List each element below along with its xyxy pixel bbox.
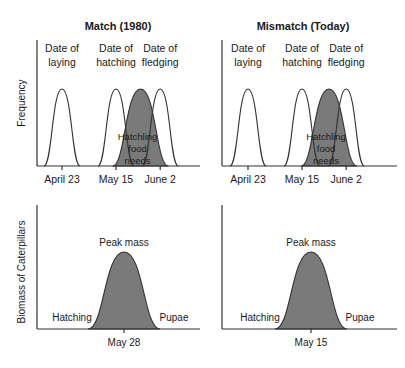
x-tick-label: April 23 bbox=[230, 173, 266, 185]
pupae-label: Pupae bbox=[346, 312, 375, 323]
series-label: Date of bbox=[143, 42, 177, 54]
food-needs-label: needs bbox=[125, 155, 151, 166]
series-label: hatching bbox=[282, 56, 322, 68]
panel-title: Match (1980) bbox=[85, 20, 152, 32]
series-label: laying bbox=[48, 56, 76, 68]
panel-mismatch-frequency: Mismatch (Today) April 23May 15June 2 Ha… bbox=[222, 20, 397, 185]
x-tick-label: June 2 bbox=[144, 173, 176, 185]
series-label: Date of bbox=[329, 42, 363, 54]
hatching-label: Hatching bbox=[52, 312, 91, 323]
peak-mass-label: Peak mass bbox=[99, 237, 148, 248]
series-label: Date of bbox=[285, 42, 319, 54]
date-of-laying-curve bbox=[44, 89, 80, 166]
x-tick-label: June 2 bbox=[330, 173, 362, 185]
food-needs-label: food bbox=[128, 143, 147, 154]
panel-mismatch-biomass: May 15 Peak mass Hatching Pupae bbox=[222, 205, 397, 348]
x-tick-label: May 28 bbox=[108, 337, 141, 348]
y-axis-label: Biomass of Caterpillars bbox=[16, 221, 27, 324]
biomass-curve bbox=[275, 252, 347, 329]
date-of-laying-curve bbox=[230, 89, 266, 166]
series-label: laying bbox=[234, 56, 262, 68]
pupae-label: Pupae bbox=[160, 312, 189, 323]
y-axis-label: Frequency bbox=[16, 79, 27, 126]
x-tick-label: April 23 bbox=[44, 173, 80, 185]
x-tick-label: May 15 bbox=[99, 173, 134, 185]
series-label: Date of bbox=[99, 42, 133, 54]
series-label: fledging bbox=[142, 56, 179, 68]
food-needs-label: needs bbox=[313, 155, 339, 166]
x-tick-label: May 15 bbox=[295, 337, 328, 348]
peak-mass-label: Peak mass bbox=[286, 237, 335, 248]
x-tick-label: May 15 bbox=[285, 173, 320, 185]
series-label: hatching bbox=[96, 56, 136, 68]
series-label: Date of bbox=[45, 42, 79, 54]
series-label: Date of bbox=[231, 42, 265, 54]
food-needs-label: Hatchling bbox=[118, 131, 158, 142]
hatching-label: Hatching bbox=[240, 312, 279, 323]
food-needs-label: Hatchling bbox=[306, 131, 346, 142]
phenology-mismatch-figure: Match (1980) Frequency April 23May 15Jun… bbox=[0, 0, 405, 368]
series-label: fledging bbox=[328, 56, 365, 68]
panel-match-biomass: Biomass of Caterpillars May 28 Peak mass… bbox=[16, 205, 200, 348]
biomass-curve bbox=[88, 252, 160, 329]
panel-title: Mismatch (Today) bbox=[257, 20, 350, 32]
panel-match-frequency: Match (1980) Frequency April 23May 15Jun… bbox=[16, 20, 200, 185]
food-needs-label: food bbox=[317, 143, 336, 154]
